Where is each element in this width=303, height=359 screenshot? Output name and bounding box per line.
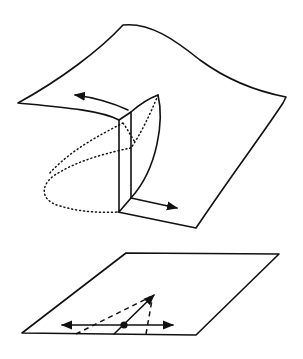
surface-outline bbox=[18, 25, 286, 228]
diagram-canvas bbox=[0, 0, 303, 359]
curved-fold-edge bbox=[131, 95, 160, 198]
dotted-hidden-curve bbox=[44, 95, 158, 212]
dashed-cone-lines bbox=[76, 297, 152, 334]
solid-diagonal-arrow bbox=[114, 295, 154, 334]
base-point bbox=[120, 321, 127, 328]
curved-surface bbox=[18, 25, 286, 228]
left-arrow bbox=[75, 95, 128, 110]
right-arrow bbox=[131, 198, 177, 208]
tangent-plane bbox=[22, 253, 279, 335]
plane-outline bbox=[22, 253, 279, 335]
